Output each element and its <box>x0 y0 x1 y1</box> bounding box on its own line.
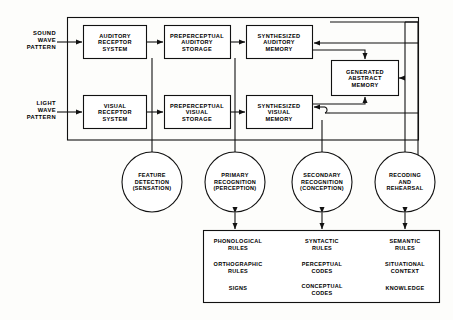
label-recoding-and-rehearsal: RECODING AND REHEARSAL <box>377 172 433 192</box>
label-sound-wave-pattern: SOUND WAVE PATTERN <box>5 30 56 52</box>
label-synthesized-auditory-memory: SYNTHESIZED AUDITORY MEMORY <box>246 33 312 52</box>
arrow-sam-to-gam <box>313 50 365 59</box>
label-secondary-recognition: SECONDARY RECOGNITION (CONCEPTION) <box>293 172 351 192</box>
label-light-wave-pattern: LIGHT WAVE PATTERN <box>5 100 56 122</box>
line-hop-arc <box>325 107 327 113</box>
diagram-canvas: SOUND WAVE PATTERN LIGHT WAVE PATTERN AU… <box>0 0 453 320</box>
label-perceptual-codes: PERCEPTUAL CODES <box>286 261 358 274</box>
label-orthographic-rules: ORTHOGRAPHIC RULES <box>202 261 274 274</box>
label-visual-receptor-system: VISUAL RECEPTOR SYSTEM <box>84 103 146 122</box>
label-generated-abstract-memory: GENERATED ABSTRACT MEMORY <box>332 69 398 88</box>
label-syntactic-rules: SYNTACTIC RULES <box>286 238 358 251</box>
label-primary-recognition: PRIMARY RECOGNITION (PERCEPTION) <box>206 172 264 192</box>
label-preperceptual-visual-storage: PREPERCEPTUAL VISUAL STORAGE <box>164 103 230 122</box>
label-feature-detection: FEATURE DETECTION (SENSATION) <box>124 172 180 192</box>
label-auditory-receptor-system: AUDITORY RECEPTOR SYSTEM <box>84 33 146 52</box>
label-conceptual-codes: CONCEPTUAL CODES <box>286 283 358 296</box>
label-phonological-rules: PHONOLOGICAL RULES <box>202 238 274 251</box>
label-situational-context: SITUATIONAL CONTEXT <box>369 261 441 274</box>
label-knowledge: KNOWLEDGE <box>369 285 441 292</box>
label-semantic-rules: SEMANTIC RULES <box>369 238 441 251</box>
label-signs: SIGNS <box>202 285 274 292</box>
label-preperceptual-auditory-storage: PREPERCEPTUAL AUDITORY STORAGE <box>164 33 230 52</box>
label-synthesized-visual-memory: SYNTHESIZED VISUAL MEMORY <box>246 103 312 122</box>
arrow-svm-to-gam <box>313 97 365 104</box>
